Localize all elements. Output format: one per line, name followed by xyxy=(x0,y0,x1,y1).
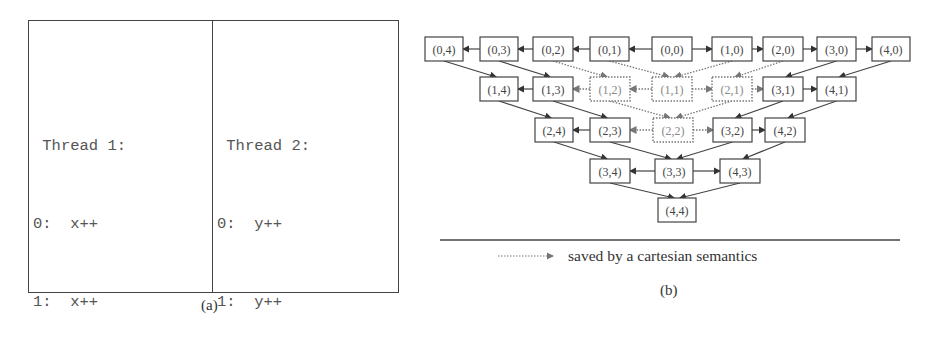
transition-edge xyxy=(840,61,892,77)
state-node-label: (2,3) xyxy=(599,124,622,138)
state-node: (1,3) xyxy=(533,77,573,101)
transition-edge xyxy=(786,61,837,77)
transition-edge xyxy=(743,142,785,159)
state-node-label: (2,1) xyxy=(721,83,744,97)
state-node-label: (3,4) xyxy=(599,165,622,179)
state-node: (4,1) xyxy=(817,77,856,101)
state-node: (4,0) xyxy=(872,37,910,61)
state-node-label: (0,0) xyxy=(661,43,684,57)
state-node-label: (0,3) xyxy=(488,43,511,57)
state-node: (3,0) xyxy=(817,37,856,61)
state-node-label: (1,1) xyxy=(661,83,684,97)
cartesian-saved-edge xyxy=(735,61,783,77)
state-node-label: (3,3) xyxy=(663,165,686,179)
cartesian-saved-edge xyxy=(553,61,607,77)
transition-edge xyxy=(610,183,674,198)
state-node-label: (1,4) xyxy=(488,83,511,97)
state-node: (1,4) xyxy=(480,77,518,101)
state-node-label: (3,0) xyxy=(825,43,848,57)
state-node-label: (2,4) xyxy=(543,124,566,138)
state-node-label: (2,2) xyxy=(662,124,685,138)
state-node-label: (4,3) xyxy=(729,165,752,179)
transition-edge xyxy=(736,101,784,118)
cartesian-saved-edge xyxy=(610,61,670,77)
state-node-label: (4,4) xyxy=(666,204,689,218)
legend-label: saved by a cartesian semantics xyxy=(568,247,757,265)
transition-edge xyxy=(553,101,607,118)
cartesian-saved-edge xyxy=(676,101,732,118)
state-node: (0,0) xyxy=(652,37,692,61)
transition-edge xyxy=(680,183,740,198)
caption-b: (b) xyxy=(660,282,678,299)
transition-edge xyxy=(610,142,671,159)
state-node: (0,4) xyxy=(425,37,463,61)
state-node: (2,3) xyxy=(590,118,630,142)
state-node-label: (0,4) xyxy=(433,43,456,57)
state-node-label: (4,0) xyxy=(880,43,903,57)
state-node: (2,0) xyxy=(763,37,803,61)
state-node-label: (1,0) xyxy=(721,43,744,57)
state-node-label: (3,2) xyxy=(721,124,744,138)
state-node-label: (2,0) xyxy=(772,43,795,57)
state-node-label: (1,2) xyxy=(599,83,622,97)
state-node: (0,2) xyxy=(533,37,573,61)
state-node: (1,0) xyxy=(712,37,752,61)
state-space-graph: (0,4)(0,3)(0,2)(0,1)(0,0)(1,0)(2,0)(3,0)… xyxy=(0,0,929,340)
state-node: (3,2) xyxy=(713,118,752,142)
state-node: (2,1) xyxy=(712,77,752,101)
state-node: (0,1) xyxy=(590,37,629,61)
state-node: (1,2) xyxy=(590,77,630,101)
transition-edge xyxy=(444,61,496,77)
state-node-label: (3,1) xyxy=(772,83,795,97)
transition-edge xyxy=(499,61,550,77)
state-node: (3,4) xyxy=(590,159,630,183)
state-node: (3,3) xyxy=(655,159,693,183)
state-node: (2,4) xyxy=(535,118,573,142)
state-node-label: (0,2) xyxy=(542,43,565,57)
state-node: (2,2) xyxy=(653,118,693,142)
state-node-label: (4,1) xyxy=(825,83,848,97)
state-node-label: (1,3) xyxy=(542,83,565,97)
state-node: (0,3) xyxy=(480,37,518,61)
transition-edge xyxy=(677,142,733,159)
state-node-label: (0,1) xyxy=(598,43,621,57)
state-node: (3,1) xyxy=(763,77,803,101)
cartesian-saved-edge xyxy=(675,61,732,77)
transition-edge xyxy=(788,101,837,118)
cartesian-saved-edge xyxy=(610,101,670,118)
state-node: (4,2) xyxy=(765,118,805,142)
transition-edge xyxy=(499,101,551,118)
state-node: (4,4) xyxy=(658,198,696,222)
state-node: (1,1) xyxy=(652,77,692,101)
state-node: (4,3) xyxy=(720,159,760,183)
transition-edge xyxy=(554,142,607,159)
graph-nodes: (0,4)(0,3)(0,2)(0,1)(0,0)(1,0)(2,0)(3,0)… xyxy=(425,37,910,222)
state-node-label: (4,2) xyxy=(774,124,797,138)
